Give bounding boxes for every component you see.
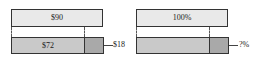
percent-top-bar-label: 100% <box>173 14 192 22</box>
price-left-tick <box>11 27 12 37</box>
price-boundary-tick <box>84 27 85 37</box>
price-callout-label: $18 <box>113 41 125 49</box>
price-bottom-bar: $72 <box>11 37 85 54</box>
percent-bottom-bar <box>136 37 210 54</box>
percent-left-tick <box>136 27 137 37</box>
price-top-bar: $90 <box>11 9 103 27</box>
price-bottom-bar-label: $72 <box>42 42 54 50</box>
price-top-bar-label: $90 <box>51 14 63 22</box>
price-callout-leader <box>104 45 113 46</box>
percent-delta-segment <box>209 37 229 54</box>
price-delta-segment <box>84 37 104 54</box>
percent-callout-label: ?% <box>239 41 249 49</box>
percent-boundary-tick <box>209 27 210 37</box>
percent-callout-leader <box>229 45 238 46</box>
percent-top-bar: 100% <box>136 9 228 27</box>
comparison-bar-diagram: $90 $72 $18 100% ?% <box>0 0 258 63</box>
